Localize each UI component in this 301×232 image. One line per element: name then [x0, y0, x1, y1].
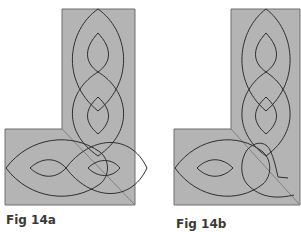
caption-fig-14b: Fig 14b: [176, 217, 226, 231]
figure-14a: [5, 9, 147, 205]
corner-panel: [174, 9, 300, 205]
corner-panel: [5, 9, 135, 205]
diagram-canvas: [0, 0, 301, 232]
figure-14b: [174, 9, 300, 205]
caption-fig-14a: Fig 14a: [6, 213, 56, 227]
